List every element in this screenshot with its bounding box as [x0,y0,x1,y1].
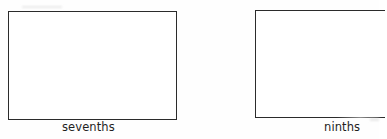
fraction-strip-sevenths-label: sevenths [62,121,115,134]
scan-smudge-icon [22,6,62,8]
fraction-strip-sevenths [8,11,177,120]
scan-artifact-icon [370,118,379,121]
fraction-strip-ninths [255,10,385,118]
fraction-strip-ninths-label: ninths [324,121,360,134]
